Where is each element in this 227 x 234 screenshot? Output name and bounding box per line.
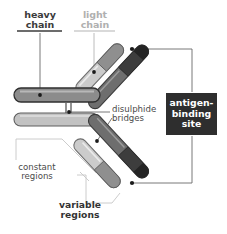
antibody-diagram: heavychain lightchain disulphidebridges … <box>0 0 227 234</box>
dot-disulphide <box>67 110 71 114</box>
bracket-variable-tick <box>80 172 89 181</box>
label-light-chain: lightchain <box>71 10 119 31</box>
label-constant-line2: regions <box>21 171 53 181</box>
label-disulphide-line2: bridges <box>112 113 144 123</box>
dot-light-chain <box>92 70 96 74</box>
label-variable-regions: variableregions <box>44 200 116 220</box>
heavy-chain-lower-left-arm <box>14 113 98 126</box>
antigen-binding-site-box: antigen- binding site <box>166 93 217 135</box>
dot-antigen-upper <box>130 47 134 51</box>
heavy-chain-upper-left-arm <box>14 88 100 102</box>
label-constant-regions: constantregions <box>6 163 68 182</box>
label-light-chain-line2: chain <box>81 19 109 30</box>
label-heavy-chain: heavychain <box>14 10 66 31</box>
label-disulphide-bridges: disulphidebridges <box>112 105 174 124</box>
dot-antigen-lower <box>130 181 134 185</box>
dot-heavy-chain <box>38 93 42 97</box>
label-variable-line2: regions <box>61 209 100 220</box>
antigen-binding-line3: site <box>182 119 201 129</box>
dot-disulphide-lower <box>95 139 99 143</box>
label-heavy-chain-line2: chain <box>26 19 54 30</box>
